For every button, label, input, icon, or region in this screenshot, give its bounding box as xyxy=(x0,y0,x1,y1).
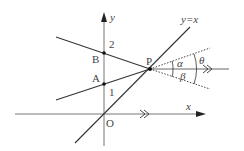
coordinate-diagram: y x O 2 1 B A P y=x α β θ xyxy=(0,0,244,151)
alpha-label: α xyxy=(177,58,183,69)
beta-arc xyxy=(172,69,173,77)
point-b-label: B xyxy=(92,54,99,65)
line-yx-label: y=x xyxy=(181,14,198,25)
theta-label: θ xyxy=(199,55,204,66)
line-y-equals-x xyxy=(75,27,190,143)
point-a xyxy=(102,82,106,86)
beta-label: β xyxy=(180,71,185,82)
x-axis-label: x xyxy=(186,101,191,112)
alpha-arc xyxy=(172,61,173,69)
y-axis-arrow-icon xyxy=(101,12,107,22)
point-p xyxy=(148,67,152,71)
tick-1-label: 1 xyxy=(109,87,115,98)
point-p-label: P xyxy=(146,56,152,67)
y-axis-label: y xyxy=(110,12,115,23)
point-a-label: A xyxy=(92,73,100,84)
tick-2-label: 2 xyxy=(109,39,115,50)
point-b xyxy=(102,51,106,55)
diagram-canvas xyxy=(0,0,244,151)
x-axis-arrow-icon xyxy=(196,111,206,117)
origin-label: O xyxy=(106,118,114,129)
